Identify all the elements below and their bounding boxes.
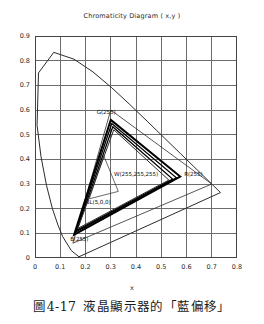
x-tick-label: 0.3	[99, 263, 123, 271]
point-label: G(255)	[97, 109, 116, 115]
x-tick-label: 0.6	[175, 263, 199, 271]
figure-number: 圖4-17	[33, 299, 76, 314]
point-label: W(255,255,255)	[114, 171, 158, 177]
figure-container: Chromaticity Diagram ( x,y ) 00.10.20.30…	[0, 0, 264, 324]
chart-title: Chromaticity Diagram ( x,y )	[0, 12, 264, 20]
y-tick-label: 0.6	[4, 106, 30, 114]
figure-caption: 圖4-17液晶顯示器的「藍偏移」	[0, 296, 264, 315]
x-tick-label: 0.7	[200, 263, 224, 271]
y-tick-label: 0.2	[4, 205, 30, 213]
point-label: R(255)	[184, 171, 202, 177]
x-tick-label: 0.8	[225, 263, 249, 271]
chromaticity-plot-svg	[35, 36, 237, 258]
y-tick-label: 0.4	[4, 155, 30, 163]
y-tick-label: 0.5	[4, 131, 30, 139]
x-axis-title: x	[0, 284, 264, 292]
x-tick-label: 0.1	[48, 263, 72, 271]
point-label: BL(5,0,0)	[86, 199, 111, 205]
point-label: B(255)	[70, 236, 88, 242]
spectral-locus	[37, 52, 220, 256]
spectral-locus-path	[37, 52, 220, 256]
y-tick-label: 0.9	[4, 32, 30, 40]
y-tick-label: 0.7	[4, 81, 30, 89]
figure-caption-text: 液晶顯示器的「藍偏移」	[83, 299, 230, 314]
y-tick-label: 0.3	[4, 180, 30, 188]
x-tick-label: 0.5	[149, 263, 173, 271]
x-tick-label: 0.2	[74, 263, 98, 271]
y-tick-label: 0	[4, 254, 30, 262]
x-tick-label: 0.4	[124, 263, 148, 271]
x-tick-label: 0	[23, 263, 47, 271]
plot-area: G(255)W(255,255,255)BL(5,0,0)R(255)B(255…	[35, 36, 237, 258]
y-tick-label: 0.1	[4, 229, 30, 237]
y-tick-label: 0.8	[4, 57, 30, 65]
